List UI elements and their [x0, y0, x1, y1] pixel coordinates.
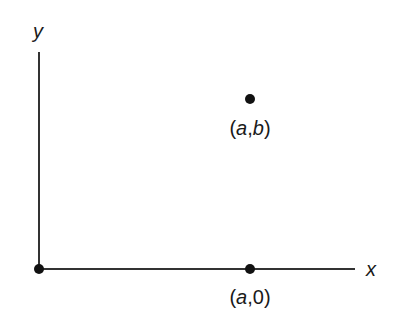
y-axis-label: y: [31, 20, 44, 42]
origin-point: [34, 264, 44, 274]
point-a0-label: (a,0): [229, 286, 270, 308]
coordinate-diagram: y x (a,b) (a,0): [0, 0, 397, 331]
point-ab-label: (a,b): [229, 117, 270, 139]
point-ab: [245, 94, 255, 104]
x-axis-label: x: [365, 258, 377, 280]
point-a0: [245, 264, 255, 274]
